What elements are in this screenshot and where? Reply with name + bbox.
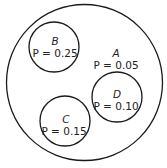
region-b-name: B bbox=[51, 35, 58, 47]
region-d-probability: P = 0.10 bbox=[93, 100, 138, 112]
region-b-probability: P = 0.25 bbox=[32, 47, 77, 59]
region-a-probability: P = 0.05 bbox=[93, 59, 138, 71]
region-d-name: D bbox=[113, 88, 121, 100]
venn-diagram: B P = 0.25 A P = 0.05 D P = 0.10 C P = 0… bbox=[0, 0, 167, 168]
region-c-name: C bbox=[62, 113, 70, 125]
region-a-name: A bbox=[111, 47, 119, 59]
region-c-probability: P = 0.15 bbox=[41, 125, 86, 137]
